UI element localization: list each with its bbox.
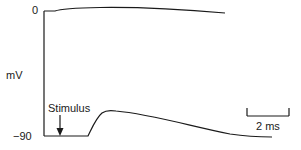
y-tick-label-zero: 0 — [32, 5, 38, 16]
y-axis-unit-label: mV — [6, 70, 23, 81]
membrane-potential-figure: 0 mV −90 Stimulus 2 ms — [0, 0, 301, 150]
zero-level-trace — [44, 7, 225, 13]
membrane-potential-trace — [44, 110, 272, 137]
stimulus-label: Stimulus — [48, 103, 90, 114]
stimulus-arrow-icon — [57, 115, 64, 136]
y-tick-label-minus90: −90 — [13, 131, 32, 142]
scale-bar-label: 2 ms — [256, 121, 280, 132]
scale-bar — [247, 108, 289, 116]
